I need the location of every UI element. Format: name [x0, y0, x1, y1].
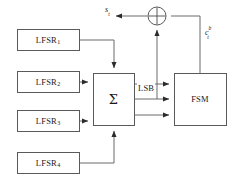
lfsr2-name: LFSR [36, 77, 57, 87]
lfsr2-label: LFSR2 [17, 71, 79, 92]
lfsr1-name: LFSR [36, 35, 57, 45]
summer-label: Σ [93, 73, 134, 125]
lfsr1-subscript: 1 [57, 39, 60, 45]
lfsr1-label: LFSR1 [17, 29, 79, 50]
lfsr3-subscript: 3 [57, 120, 60, 126]
lfsr4-name: LFSR [36, 158, 57, 168]
fsm-feedback-subscript: t [207, 34, 209, 40]
lfsr3-name: LFSR [36, 116, 57, 126]
output-signal-label: st [105, 5, 110, 16]
lfsr3-label: LFSR3 [17, 110, 79, 131]
lfsr2-subscript: 2 [57, 81, 60, 87]
lsb-label: LSB [137, 83, 155, 93]
wire-fsm-to-xor [171, 16, 200, 74]
block-diagram: LFSR1 LFSR2 LFSR3 LFSR4 Σ FSM LSB st cbt [0, 0, 236, 190]
lfsr4-subscript: 4 [57, 162, 60, 168]
fsm-feedback-label: cbt [205, 26, 213, 38]
wire-lfsr4-to-summer [80, 131, 115, 163]
xor-gate-shape [148, 7, 166, 25]
wire-lfsr1-to-summer [80, 40, 115, 68]
output-signal-subscript: t [108, 11, 110, 17]
fsm-feedback-superscript: b [209, 25, 212, 31]
fsm-label: FSM [174, 73, 226, 125]
lfsr4-label: LFSR4 [17, 152, 79, 173]
